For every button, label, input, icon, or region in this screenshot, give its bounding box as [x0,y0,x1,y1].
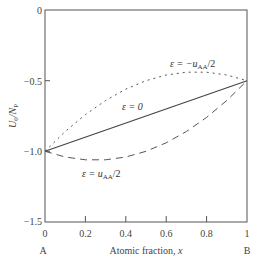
svg-text:−0.5: −0.5 [24,76,42,87]
series-dotted-line [45,72,247,151]
series-solid-line [45,81,247,152]
annotation-eps-zero: ε = 0 [122,101,143,112]
svg-text:1: 1 [245,228,250,239]
svg-text:0: 0 [43,228,48,239]
svg-text:0.4: 0.4 [120,228,133,239]
annotation-eps-neg: ε = −uAA/2 [170,58,215,71]
svg-text:0.8: 0.8 [200,228,213,239]
svg-text:−1.0: −1.0 [24,146,42,157]
left-end-label: A [39,245,47,256]
annotation-eps-pos: ε = uAA/2 [82,168,121,181]
right-end-label: B [244,245,251,256]
chart: 0 −0.5 −1.0 −1.5 0 0.2 0.4 0.6 0.8 1 A B… [0,0,261,261]
x-tick-labels: 0 0.2 0.4 0.6 0.8 1 [43,228,250,239]
svg-text:0.2: 0.2 [79,228,92,239]
x-axis-label: Atomic fraction, x [109,245,183,256]
series-dashed-line [45,81,247,160]
x-axis-ticks [85,216,206,222]
y-axis-ticks [45,81,50,152]
svg-text:0: 0 [37,5,42,16]
svg-text:0.6: 0.6 [160,228,173,239]
y-tick-labels: 0 −0.5 −1.0 −1.5 [24,5,42,227]
svg-text:−1.5: −1.5 [24,216,42,227]
y-axis-label: U0/NP [7,104,20,128]
